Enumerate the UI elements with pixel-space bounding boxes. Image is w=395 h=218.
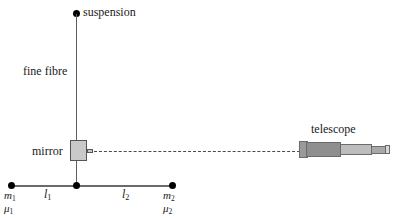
- length-l2-subscript: 2: [125, 193, 129, 202]
- balance-rod: [11, 185, 173, 187]
- mass-left-labels: m1 μ1: [4, 190, 16, 215]
- mu2-label: μ2: [163, 203, 175, 216]
- telescope-eyepiece-segment: [385, 145, 390, 154]
- telescope-label: telescope: [311, 123, 356, 135]
- mass-m2-subscript: 2: [171, 194, 175, 203]
- fine-fibre-label: fine fibre: [23, 65, 67, 77]
- mass-m1-symbol: m: [4, 189, 12, 201]
- mirror-icon: [70, 140, 87, 161]
- sight-line-dashed-icon: [94, 151, 300, 152]
- mass-right-labels: m2 μ2: [163, 190, 175, 215]
- mirror-mount-stub-icon: [87, 149, 93, 153]
- length-l1-subscript: 1: [47, 193, 51, 202]
- suspension-label: suspension: [83, 6, 136, 18]
- mu1-label: μ1: [4, 203, 16, 216]
- mass-m1-subscript: 1: [12, 194, 16, 203]
- telescope-body-segment: [306, 142, 341, 157]
- mass-node-right-dot-icon: [169, 182, 176, 189]
- torsion-balance-diagram: suspension fine fibre mirror l1 l2 m1 μ1…: [0, 0, 395, 218]
- mass-node-left-dot-icon: [8, 182, 15, 189]
- mu2-subscript: 2: [169, 207, 173, 216]
- rod-center-dot-icon: [73, 182, 80, 189]
- length-l1-label: l1: [44, 188, 51, 202]
- telescope-middle-segment: [340, 144, 372, 155]
- mirror-label: mirror: [32, 145, 63, 157]
- length-l2-label: l2: [122, 188, 129, 202]
- mass-m2-symbol: m: [163, 189, 171, 201]
- mu1-subscript: 1: [10, 207, 14, 216]
- telescope-icon: [299, 141, 391, 162]
